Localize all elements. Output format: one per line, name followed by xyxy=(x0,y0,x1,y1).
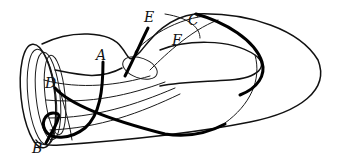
label-d: D xyxy=(44,75,56,91)
thick-curve xyxy=(43,14,263,143)
label-c: C xyxy=(188,12,199,28)
label-a: A xyxy=(94,47,106,63)
label-e: E xyxy=(143,9,154,25)
label-b: B xyxy=(31,140,42,156)
klein-bottle-diagram: A B C D E F xyxy=(0,0,338,160)
label-f: F xyxy=(171,32,183,48)
